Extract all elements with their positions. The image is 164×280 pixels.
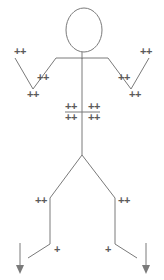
stick-figure-diagram: ++ ++ ++ ++ ++ ++ ++ ++ ++ ++ ++ ++ + +: [0, 0, 164, 280]
right-forearm-line: [131, 58, 149, 89]
figure-line-art: [0, 0, 164, 280]
right-down-arrow-head: [142, 265, 150, 274]
left-down-arrow-head: [16, 265, 24, 274]
left-foot-line: [28, 244, 50, 258]
right-thigh-line: [82, 155, 115, 198]
head-ellipse: [66, 8, 102, 52]
left-forearm-line: [15, 58, 33, 89]
left-upper-arm-line: [33, 58, 56, 89]
right-upper-arm-line: [108, 58, 131, 89]
right-foot-line: [115, 244, 137, 258]
left-thigh-line: [50, 155, 82, 198]
